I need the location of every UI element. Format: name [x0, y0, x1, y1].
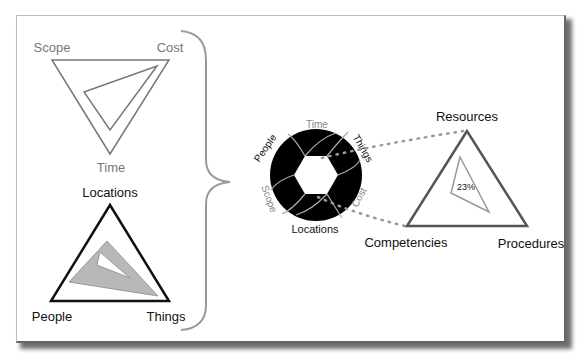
capability-percentage: 23% — [457, 182, 475, 192]
capability-triangle-outer — [407, 131, 527, 226]
capability-triangle: 23% Resources Competencies Procedures — [364, 109, 564, 251]
label-scope: Scope — [34, 40, 71, 55]
label-locations: Locations — [82, 185, 138, 200]
label-things: Things — [146, 309, 186, 324]
asset-triangle: Locations People Things — [32, 185, 186, 324]
project-triangle-inner — [84, 66, 157, 130]
aperture-icon: Time People Things Scope Cost Locations — [252, 119, 376, 235]
label-procedures: Procedures — [498, 236, 565, 251]
curly-brace — [181, 31, 230, 330]
label-competencies: Competencies — [364, 235, 448, 250]
label-time: Time — [97, 160, 125, 175]
label-cost: Cost — [157, 40, 184, 55]
aperture-label-locations: Locations — [291, 223, 339, 235]
aperture-label-time: Time — [306, 119, 328, 130]
diagram-canvas: Scope Cost Time Locations People Things … — [0, 0, 584, 362]
label-people: People — [32, 309, 72, 324]
label-resources: Resources — [436, 109, 499, 124]
project-triangle: Scope Cost Time — [34, 40, 184, 175]
